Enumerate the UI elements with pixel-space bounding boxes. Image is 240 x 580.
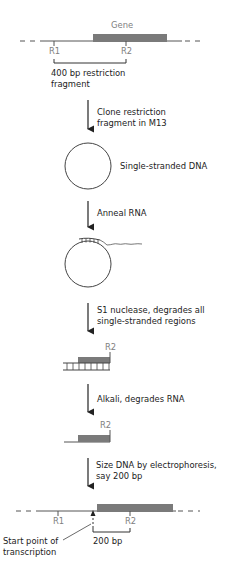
step-3-line1: S1 nuclease, degrades all <box>97 305 205 316</box>
step-1-line2: fragment in M13 <box>97 118 167 129</box>
start-point-line2: transcription <box>3 547 56 558</box>
diagram-canvas <box>0 0 240 580</box>
gene-box-bottom <box>97 504 173 512</box>
step-5-line1: Size DNA by electrophoresis, <box>96 460 217 471</box>
step-2-line1: Anneal RNA <box>97 208 146 219</box>
annealed-circle <box>65 238 142 287</box>
site-r1-label: R1 <box>49 46 60 57</box>
gene-box <box>93 34 167 42</box>
ssdna-circle <box>65 143 111 189</box>
site-r2-label: R2 <box>121 46 132 57</box>
start-point-line1: Start point of <box>3 536 58 547</box>
top-gene-map <box>20 34 205 63</box>
hybrid-r2-label: R2 <box>105 342 116 353</box>
bottom-r2-label: R2 <box>125 516 136 527</box>
bottom-gene-map <box>16 504 200 540</box>
gene-label: Gene <box>111 20 133 31</box>
fragment-label-line1: 400 bp restriction <box>51 68 125 79</box>
fragment-label-line2: fragment <box>51 79 90 90</box>
size-200bp-label: 200 bp <box>93 536 122 547</box>
step-5-line2: say 200 bp <box>96 471 142 482</box>
dna-r2-label: R2 <box>100 420 111 431</box>
s1-hybrid <box>63 352 110 370</box>
step-3-line2: single-stranded regions <box>97 316 196 327</box>
step-1-line1: Clone restriction <box>97 107 166 118</box>
step-4-line1: Alkali, degrades RNA <box>97 394 185 405</box>
bottom-r1-label: R1 <box>53 516 64 527</box>
alkali-dna <box>64 430 110 442</box>
ssdna-label: Single-stranded DNA <box>120 161 207 172</box>
